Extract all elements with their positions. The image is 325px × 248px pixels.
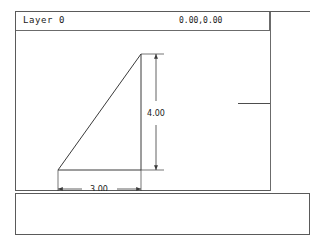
horizontal-dimension-label: 3.00 — [90, 185, 108, 191]
vertical-dimension-group: 4.00 — [141, 54, 165, 170]
horizontal-dimension-group: 3.00 — [58, 170, 141, 191]
vertical-dimension-label: 4.00 — [147, 109, 165, 118]
panel-separator-rule — [238, 103, 270, 104]
current-layer-label[interactable]: Layer 0 — [23, 15, 65, 25]
right-tool-panel[interactable] — [271, 12, 310, 191]
drawing-window: Layer 0 0.00,0.00 — [15, 11, 310, 191]
status-bar: Layer 0 0.00,0.00 — [16, 12, 270, 31]
drawing-canvas[interactable]: 3.00 4.00 — [16, 31, 270, 191]
triangle-geometry — [58, 54, 141, 170]
cursor-coordinates-readout: 0.00,0.00 — [179, 16, 222, 25]
cad-application: Layer 0 0.00,0.00 — [0, 0, 325, 248]
command-prompt-panel[interactable] — [15, 193, 310, 235]
